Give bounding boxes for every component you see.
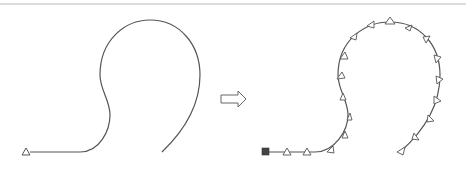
transition-arrow-icon	[221, 91, 246, 107]
marker-triangle-icon	[405, 25, 412, 31]
start-marker-icon	[262, 148, 269, 155]
marker-triangle-icon	[427, 115, 434, 122]
path-markers	[283, 17, 443, 155]
left-curve-group	[22, 20, 200, 155]
left-start-triangle-icon	[22, 148, 30, 155]
right-curve-group	[262, 17, 443, 155]
diagram-canvas	[0, 0, 466, 171]
left-curve	[30, 20, 200, 152]
marker-triangle-icon	[340, 93, 346, 100]
marker-triangle-icon	[397, 147, 405, 155]
marker-triangle-icon	[434, 55, 441, 63]
marker-triangle-icon	[385, 17, 395, 24]
